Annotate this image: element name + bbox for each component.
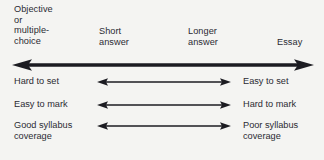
scale-label-essay: Essay bbox=[277, 37, 302, 48]
row-set-right-label: Easy to set bbox=[243, 76, 288, 87]
row-syllabus-left-label: Good syllabus coverage bbox=[14, 120, 72, 142]
row-mark-right-label: Hard to mark bbox=[243, 99, 296, 110]
row-mark-left-label: Easy to mark bbox=[14, 99, 68, 110]
scale-label-longer-answer: Longer answer bbox=[188, 26, 218, 47]
comparison-row-syllabus: Good syllabus coverage Poor syllabus cov… bbox=[0, 120, 324, 146]
row-mark-arrow bbox=[97, 99, 231, 111]
row-set-arrow bbox=[97, 76, 231, 88]
row-syllabus-arrow bbox=[97, 120, 231, 132]
row-syllabus-right-label: Poor syllabus coverage bbox=[243, 120, 298, 142]
row-set-left-label: Hard to set bbox=[14, 76, 59, 87]
continuum-axis-arrow bbox=[10, 57, 316, 73]
scale-label-short-answer: Short answer bbox=[99, 26, 129, 47]
assessment-continuum-diagram: Objective or multiple- choice Short answ… bbox=[0, 0, 324, 160]
scale-label-objective: Objective or multiple- choice bbox=[14, 4, 53, 46]
